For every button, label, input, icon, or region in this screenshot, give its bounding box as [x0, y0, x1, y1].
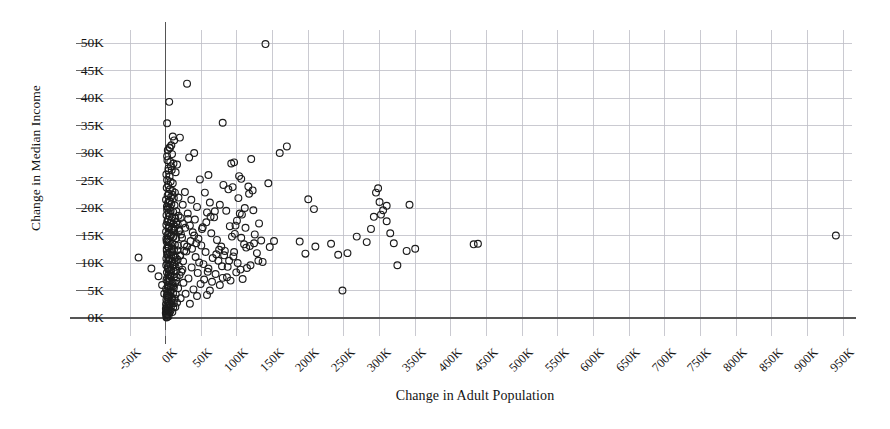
scatter-chart: Change in Median Income Change in Adult …: [0, 0, 890, 429]
x-tick-label-group: -50K0K50K100K150K200K250K300K350K400K450…: [0, 0, 890, 429]
